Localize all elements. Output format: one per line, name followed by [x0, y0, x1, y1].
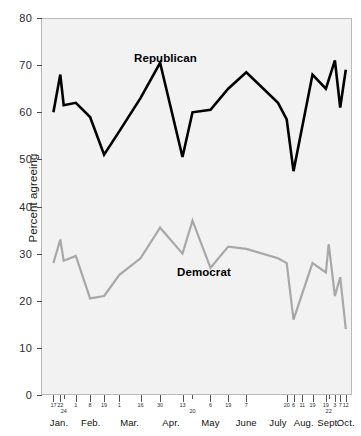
x-axis-tick-mark	[53, 395, 54, 402]
x-axis-tick-label: 7	[339, 402, 342, 408]
x-axis-tick-mark	[228, 395, 229, 402]
x-axis-tick-label: 16	[137, 402, 143, 408]
y-axis-tick-label: 70	[6, 59, 32, 71]
x-axis-tick-label: 1	[74, 402, 77, 408]
y-axis-tick-label: 60	[6, 106, 32, 118]
x-axis-tick-mark	[90, 395, 91, 402]
x-axis-tick-label: 8	[89, 402, 92, 408]
x-axis-tick-mark	[294, 395, 295, 402]
series-lines	[41, 18, 352, 395]
x-axis-tick-label: 6	[209, 402, 212, 408]
y-axis-tick-mark	[37, 65, 42, 66]
series-label-democrat: Democrat	[177, 266, 231, 278]
x-axis: 17222418191163013206197206111919223712Ja…	[41, 395, 352, 436]
y-axis-tick-mark	[37, 395, 42, 396]
x-axis-tick-mark	[192, 395, 193, 399]
x-axis-tick-label: 1	[118, 402, 121, 408]
x-axis-tick-mark	[340, 395, 341, 402]
x-axis-tick-mark	[141, 395, 142, 402]
x-axis-tick-label: 20	[284, 402, 290, 408]
x-axis-tick-mark	[287, 395, 288, 402]
y-axis-tick-label: 10	[6, 342, 32, 354]
x-axis-tick-mark	[335, 395, 336, 402]
x-axis-tick-mark	[329, 395, 330, 399]
y-axis-tick-label: 50	[6, 153, 32, 165]
x-axis-month-label: June	[236, 417, 257, 428]
y-axis-tick-label: 80	[6, 12, 32, 24]
y-axis-tick-label: 0	[6, 389, 32, 401]
x-axis-month-label: Aug.	[294, 417, 314, 428]
x-axis-tick-mark	[119, 395, 120, 402]
x-axis-tick-mark	[104, 395, 105, 402]
x-axis-tick-mark	[246, 395, 247, 402]
x-axis-tick-label: 30	[157, 402, 163, 408]
x-axis-tick-label: 7	[245, 402, 248, 408]
y-axis-tick-mark	[37, 254, 42, 255]
y-axis-tick-mark	[37, 18, 42, 19]
x-axis-tick-mark	[76, 395, 77, 402]
x-axis-tick-mark	[60, 395, 61, 402]
x-axis-tick-label: 12	[343, 402, 349, 408]
x-axis-tick-label: 22	[326, 408, 332, 414]
x-axis-tick-label: 6	[292, 402, 295, 408]
x-axis-tick-label: 24	[61, 408, 67, 414]
x-axis-tick-mark	[302, 395, 303, 402]
x-axis-month-label: May	[201, 417, 219, 428]
y-axis-tick-mark	[37, 348, 42, 349]
chart-container: Percent agreeing Republican Democrat 172…	[0, 0, 361, 436]
x-axis-tick-mark	[64, 395, 65, 399]
x-axis-month-label: Apr.	[162, 417, 179, 428]
y-axis-tick-mark	[37, 207, 42, 208]
x-axis-tick-mark	[210, 395, 211, 402]
x-axis-month-label: July	[269, 417, 286, 428]
x-axis-tick-label: 3	[333, 402, 336, 408]
x-axis-month-label: Mar.	[120, 417, 139, 428]
y-axis-tick-label: 40	[6, 201, 32, 213]
x-axis-tick-label: 11	[299, 402, 305, 408]
x-axis-tick-label: 20	[189, 408, 195, 414]
y-axis-tick-label: 30	[6, 248, 32, 260]
y-axis-tick-mark	[37, 301, 42, 302]
x-axis-month-label: Oct.	[337, 417, 355, 428]
x-axis-tick-label: 19	[309, 402, 315, 408]
x-axis-tick-mark	[160, 395, 161, 402]
x-axis-tick-mark	[313, 395, 314, 402]
x-axis-tick-label: 13	[179, 402, 185, 408]
series-label-republican: Republican	[134, 52, 197, 64]
x-axis-tick-label: 17	[50, 402, 56, 408]
x-axis-tick-mark	[346, 395, 347, 402]
line-series-republican	[53, 60, 345, 171]
x-axis-tick-label: 19	[225, 402, 231, 408]
x-axis-month-label: Feb.	[81, 417, 100, 428]
x-axis-month-label: Jan.	[50, 417, 68, 428]
x-axis-tick-mark	[183, 395, 184, 402]
x-axis-tick-mark	[326, 395, 327, 402]
y-axis-tick-label: 20	[6, 295, 32, 307]
y-axis-tick-mark	[37, 159, 42, 160]
y-axis-tick-mark	[37, 112, 42, 113]
x-axis-tick-label: 19	[101, 402, 107, 408]
